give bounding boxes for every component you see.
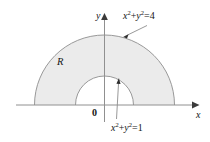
origin-label: 0 — [92, 108, 97, 118]
y-axis-arrowhead — [101, 13, 108, 20]
x-axis-label: x — [196, 110, 200, 120]
inner-circle-equation-label: x2+y2=1 — [111, 123, 143, 133]
math-figure: x2+y2=4 x2+y2=1 y x R 0 — [0, 0, 210, 142]
outer-eq-value: 4 — [150, 10, 155, 21]
region-label-r: R — [57, 57, 63, 68]
inner-label-leader-line — [117, 79, 119, 120]
figure-canvas — [0, 0, 210, 142]
x-axis-arrowhead — [192, 102, 200, 109]
inner-eq-value: 1 — [138, 122, 143, 133]
outer-circle-equation-label: x2+y2=4 — [123, 11, 155, 21]
y-axis-label: y — [96, 11, 100, 21]
